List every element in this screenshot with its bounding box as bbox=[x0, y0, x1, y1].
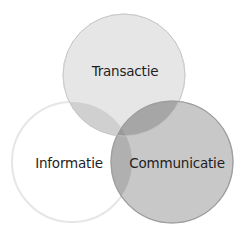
label-transactie: Transactie bbox=[91, 63, 159, 79]
venn-diagram: Transactie Informatie Communicatie bbox=[0, 0, 244, 236]
label-communicatie: Communicatie bbox=[129, 155, 225, 171]
label-informatie: Informatie bbox=[35, 155, 103, 171]
